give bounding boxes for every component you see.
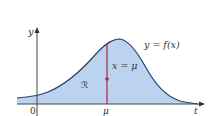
x-axis-arrow-icon <box>199 102 205 107</box>
density-chart: y 0 μ t y = f(x) x = μ ℛ <box>0 0 211 116</box>
mu-tick-label: μ <box>103 106 109 116</box>
curve-label: y = f(x) <box>143 39 180 50</box>
y-axis-arrow-icon <box>35 27 40 33</box>
x-axis-label: t <box>194 106 198 116</box>
region-label: ℛ <box>81 80 88 90</box>
centroid-dot <box>105 77 109 81</box>
origin-label: 0 <box>30 106 36 116</box>
vline-label: x = μ <box>112 60 138 71</box>
y-axis-label: y <box>27 26 34 37</box>
